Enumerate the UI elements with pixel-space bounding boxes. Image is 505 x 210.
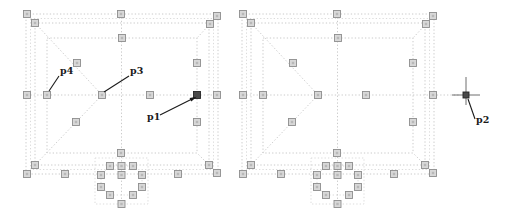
marker-inner-dot — [412, 62, 414, 64]
marker-inner-dot — [120, 174, 122, 176]
marker-inner-dot — [432, 15, 434, 17]
marker-inner-dot — [120, 203, 122, 205]
marker-inner-dot — [216, 15, 218, 17]
marker-inner-dot — [291, 121, 293, 123]
plan-diagram-canvas: p4p3p1p2 — [0, 0, 505, 210]
wall-outline-inner — [35, 23, 209, 165]
plan-left: p4p3p1 — [24, 11, 221, 208]
marker-inner-dot — [348, 165, 350, 167]
inner-grid-rect — [47, 38, 197, 153]
cluster-ring — [101, 166, 142, 195]
marker-inner-dot — [26, 94, 28, 96]
marker-inner-dot — [209, 23, 211, 25]
marker-inner-dot — [348, 194, 350, 196]
marker-inner-dot — [432, 172, 434, 174]
marker-inner-dot — [132, 194, 134, 196]
marker-inner-dot — [242, 94, 244, 96]
marker-inner-dot — [336, 174, 338, 176]
marker-inner-dot — [101, 94, 103, 96]
roof-diagonal-line — [35, 95, 102, 165]
marker-inner-dot — [100, 186, 102, 188]
marker-inner-dot — [242, 13, 244, 15]
marker-inner-dot — [336, 152, 338, 154]
marker-inner-dot — [357, 186, 359, 188]
marker-inner-dot — [100, 174, 102, 176]
marker-inner-dot — [242, 173, 244, 175]
leader-line-p3 — [104, 76, 129, 92]
label-p2: p2 — [476, 114, 489, 125]
leader-line-p1 — [160, 98, 194, 115]
leader-line-p4 — [49, 76, 59, 91]
marker-inner-dot — [34, 22, 36, 24]
marker-inner-dot — [412, 121, 414, 123]
marker-inner-dot — [76, 62, 78, 64]
marker-inner-dot — [336, 203, 338, 205]
marker-inner-dot — [216, 94, 218, 96]
marker-inner-dot — [75, 121, 77, 123]
marker-inner-dot — [26, 173, 28, 175]
label-p1: p1 — [147, 111, 160, 122]
marker-inner-dot — [141, 186, 143, 188]
marker-inner-dot — [317, 94, 319, 96]
marker-inner-dot — [109, 165, 111, 167]
marker-inner-dot — [262, 94, 264, 96]
roof-diagonal-line — [35, 23, 102, 95]
marker-inner-dot — [365, 94, 367, 96]
marker-inner-dot — [64, 173, 66, 175]
marker-inner-dot — [336, 165, 338, 167]
marker-inner-dot — [250, 22, 252, 24]
marker-inner-dot — [336, 13, 338, 15]
roof-diagonal-line — [251, 95, 318, 165]
marker-inner-dot — [280, 173, 282, 175]
leader-arrowhead-icon — [190, 97, 197, 102]
marker-inner-dot — [316, 174, 318, 176]
marker-inner-dot — [316, 186, 318, 188]
marker-inner-dot — [325, 165, 327, 167]
roof-diagonal-line — [251, 23, 318, 95]
marker-inner-dot — [121, 37, 123, 39]
marker-inner-dot — [141, 174, 143, 176]
marker-inner-dot — [337, 37, 339, 39]
marker-inner-dot — [46, 94, 48, 96]
wall-outline-inner — [251, 23, 425, 165]
marker-inner-dot — [292, 62, 294, 64]
marker-inner-dot — [250, 164, 252, 166]
cluster-ring — [317, 166, 358, 195]
marker-inner-dot — [216, 172, 218, 174]
marker-inner-dot — [425, 23, 427, 25]
figure: p4p3p1p2 — [0, 0, 505, 210]
marker-inner-dot — [208, 164, 210, 166]
marker-inner-dot — [120, 13, 122, 15]
marker-inner-dot — [196, 121, 198, 123]
marker-inner-dot — [34, 164, 36, 166]
marker-inner-dot — [120, 152, 122, 154]
marker-inner-dot — [424, 164, 426, 166]
marker-inner-dot — [132, 165, 134, 167]
marker-inner-dot — [149, 94, 151, 96]
leader-line-p2 — [468, 99, 475, 119]
marker-inner-dot — [109, 194, 111, 196]
marker-inner-dot — [26, 13, 28, 15]
marker-inner-dot — [120, 165, 122, 167]
marker-inner-dot — [325, 194, 327, 196]
label-p4: p4 — [60, 65, 74, 76]
point-p2-marker — [463, 92, 469, 98]
label-p3: p3 — [130, 65, 143, 76]
plan-right: p2 — [240, 11, 490, 208]
inner-grid-rect — [263, 38, 413, 153]
marker-inner-dot — [393, 173, 395, 175]
marker-inner-dot — [196, 62, 198, 64]
marker-inner-dot — [177, 173, 179, 175]
marker-inner-dot — [432, 94, 434, 96]
marker-inner-dot — [357, 174, 359, 176]
